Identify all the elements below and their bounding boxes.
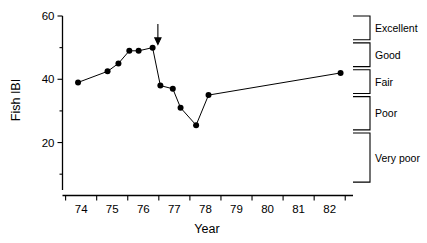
x-tick-label: 81 <box>292 203 305 215</box>
data-point-marker <box>206 92 212 98</box>
data-point-marker <box>178 105 184 111</box>
legend-label-very-poor: Very poor <box>375 152 420 164</box>
data-point-marker <box>105 68 111 74</box>
legend-label-good: Good <box>375 49 401 61</box>
x-tick-label: 79 <box>230 203 243 215</box>
legend-label-excellent: Excellent <box>375 22 418 34</box>
legend-label-fair: Fair <box>375 76 394 88</box>
fish-ibi-chart: 204060 747576777879808182 ExcellentGoodF… <box>0 0 427 243</box>
x-axis-title: Year <box>194 222 219 236</box>
data-point-marker <box>338 70 344 76</box>
y-axis-title: Fish IBI <box>9 79 23 121</box>
legend-label-poor: Poor <box>375 107 398 119</box>
x-tick-label: 80 <box>261 203 274 215</box>
data-point-marker <box>193 122 199 128</box>
y-tick-label: 40 <box>42 73 55 85</box>
y-tick-label: 60 <box>42 10 55 22</box>
y-tick-label: 20 <box>42 137 55 149</box>
x-tick-label: 75 <box>106 203 119 215</box>
data-point-marker <box>157 83 163 89</box>
x-tick-label: 77 <box>168 203 181 215</box>
chart-background <box>0 0 427 243</box>
data-point-marker <box>136 48 142 54</box>
data-point-marker <box>115 60 121 66</box>
x-tick-label: 82 <box>323 203 336 215</box>
data-point-marker <box>150 45 156 51</box>
data-point-marker <box>75 79 81 85</box>
data-point-marker <box>170 86 176 92</box>
data-point-marker <box>126 48 132 54</box>
x-tick-label: 76 <box>137 203 150 215</box>
chart-canvas: 204060 747576777879808182 ExcellentGoodF… <box>0 0 427 243</box>
x-tick-label: 78 <box>199 203 212 215</box>
x-tick-label: 74 <box>75 203 88 215</box>
